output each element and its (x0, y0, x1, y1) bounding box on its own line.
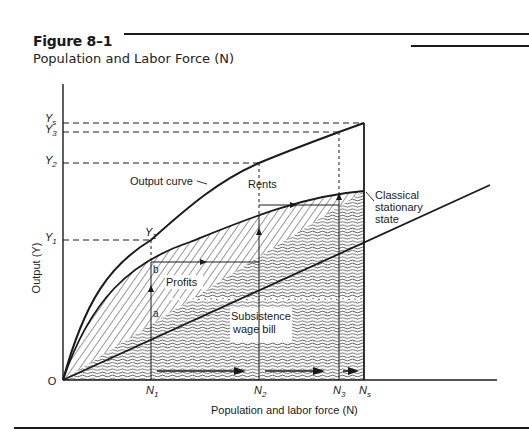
subsistence-label-line1: Subsistence (231, 310, 291, 322)
subsistence-label-line2: wage bill (232, 323, 276, 335)
classical-label-line1: Classical (375, 189, 419, 201)
output-curve-label: Output curve (130, 175, 193, 187)
y-tick-y1: Y1 (45, 231, 57, 246)
x-tick-n1: N1 (146, 384, 158, 399)
bottom-rule (14, 427, 529, 429)
classical-label-line3: state (375, 213, 399, 225)
x-tick-n2: N2 (254, 384, 267, 399)
classical-growth-diagram: O N1 N2 N3 Ns Population and labor force… (0, 0, 529, 436)
x-tick-ns: Ns (359, 384, 371, 399)
profits-label: Profits (166, 276, 198, 288)
x-axis-label: Population and labor force (N) (211, 404, 358, 416)
classical-label-line2: stationary (375, 201, 423, 213)
y-axis-label: Output (Y) (30, 243, 42, 294)
point-a-label: a (153, 308, 159, 319)
x-tick-n3: N3 (333, 384, 346, 399)
rents-label: Rents (248, 178, 277, 190)
y-tick-y2: Y2 (45, 154, 57, 169)
point-b-label: b (153, 264, 159, 275)
origin-label: O (48, 375, 57, 387)
